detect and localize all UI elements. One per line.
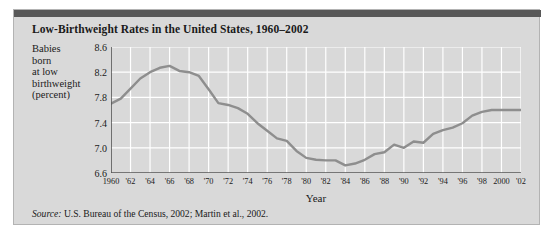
x-tick-label: '74 xyxy=(243,177,253,186)
y-tick-label: 7.0 xyxy=(67,142,107,153)
source-note: Source: U.S. Bureau of the Census, 2002;… xyxy=(32,208,268,219)
x-tick-label: '78 xyxy=(282,177,292,186)
line-chart-svg xyxy=(111,47,521,173)
x-tick-label: '96 xyxy=(458,177,468,186)
source-text: U.S. Bureau of the Census, 2002; Martin … xyxy=(61,208,268,219)
x-tick-label: '02 xyxy=(516,177,526,186)
x-tick-label: '82 xyxy=(321,177,331,186)
chart-title: Low-Birthweight Rates in the United Stat… xyxy=(32,23,309,35)
y-axis-title-line-4: birthweight xyxy=(32,78,102,90)
x-tick-label: '62 xyxy=(126,177,136,186)
x-tick-label: '92 xyxy=(418,177,428,186)
source-label: Source: xyxy=(32,208,61,219)
x-tick-label: '76 xyxy=(262,177,272,186)
plot-area: 8.68.27.87.47.06.6 1960'62'64'66'68'70'7… xyxy=(111,47,521,173)
x-tick-label: '80 xyxy=(301,177,311,186)
x-tick-label: '64 xyxy=(145,177,155,186)
y-tick-label: 6.6 xyxy=(67,168,107,179)
x-tick-label: '70 xyxy=(204,177,214,186)
y-tick-label: 7.4 xyxy=(67,117,107,128)
y-axis-title-line-2: born xyxy=(32,55,102,67)
x-tick-label: '88 xyxy=(379,177,389,186)
x-tick-label: '66 xyxy=(165,177,175,186)
x-tick-label: '68 xyxy=(184,177,194,186)
x-tick-label: '86 xyxy=(360,177,370,186)
y-tick-label: 8.6 xyxy=(67,42,107,53)
x-tick-label: '90 xyxy=(399,177,409,186)
x-tick-label: 2000 xyxy=(493,177,510,186)
header-bar xyxy=(14,10,541,17)
x-tick-label: '94 xyxy=(438,177,448,186)
figure-page: Low-Birthweight Rates in the United Stat… xyxy=(0,0,551,242)
x-tick-label: 1960 xyxy=(103,177,120,186)
x-tick-label: '84 xyxy=(340,177,350,186)
x-tick-label: '98 xyxy=(477,177,487,186)
y-tick-label: 8.2 xyxy=(67,67,107,78)
y-tick-label: 7.8 xyxy=(67,92,107,103)
x-axis-title: Year xyxy=(111,192,521,204)
chart-card: Low-Birthweight Rates in the United Stat… xyxy=(13,9,540,225)
x-tick-label: '72 xyxy=(223,177,233,186)
